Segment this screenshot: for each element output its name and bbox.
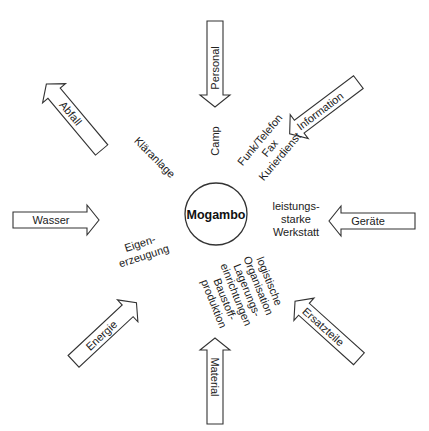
label-line: Werkstatt (273, 226, 319, 238)
arrow-label: Wasser (33, 214, 70, 226)
arrow-geraete: Geräte (329, 206, 415, 236)
arrow-energie: Energie (63, 292, 146, 373)
label-line: leistungs- (272, 200, 319, 212)
arrow-label: Personal (209, 46, 221, 89)
arrow-abfall: Abfall (35, 74, 113, 159)
arrow-label: Ersatzteile (300, 305, 346, 348)
hub-label: Mogambo (186, 208, 245, 222)
arrow-label: Energie (83, 318, 119, 353)
label-logistik: logistische Organisation Lagerungs- einr… (196, 248, 288, 336)
arrow-wasser: Wasser (13, 205, 99, 235)
label-werkstatt: leistungs- starke Werkstatt (272, 200, 319, 238)
arrow-label: Geräte (351, 215, 385, 227)
label-eigenerzeugung: Eigen- erzeugung (113, 230, 170, 270)
label-line: starke (281, 213, 311, 225)
arrow-material: Material (200, 338, 230, 424)
label-klaeranlage: Kläranlage (132, 134, 178, 180)
arrow-label: Material (209, 357, 221, 396)
arrow-ersatzteile: Ersatzteile (285, 290, 369, 370)
resource-flow-diagram: Mogambo Personal Material Wasser Geräte … (0, 0, 429, 431)
hub-mogambo: Mogambo (185, 183, 247, 245)
arrow-personal: Personal (200, 21, 230, 107)
arrow-label: Information (294, 90, 345, 133)
label-camp: Camp (209, 126, 221, 155)
